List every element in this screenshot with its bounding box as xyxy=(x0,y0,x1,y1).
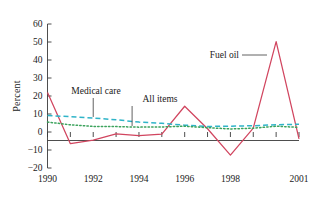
x-axis: 199019921994199619982001 xyxy=(38,132,309,184)
y-axis-tick-labels: 6050403020100−10−20 xyxy=(28,19,43,173)
x-axis-tick-label: 2001 xyxy=(290,174,309,184)
y-axis-tick-label: 40 xyxy=(33,55,43,65)
x-axis-tick-labels: 199019921994199619982001 xyxy=(38,174,309,184)
annotation-label-fuel-oil: Fuel oil xyxy=(210,50,240,60)
y-axis-tick-label: −10 xyxy=(28,145,43,155)
y-axis-tick-label: 30 xyxy=(33,73,43,83)
percent-change-line-chart: 6050403020100−10−20 Percent 199019921994… xyxy=(0,0,309,203)
x-axis-tick-label: 1990 xyxy=(38,174,57,184)
chart-container: 6050403020100−10−20 Percent 199019921994… xyxy=(0,0,309,203)
y-axis-tick-label: 50 xyxy=(33,37,43,47)
x-axis-tick-label: 1996 xyxy=(175,174,194,184)
annotations-group: Medical careAll itemsFuel oil xyxy=(71,50,267,126)
x-axis-tick-label: 1994 xyxy=(129,174,148,184)
x-axis-tick-label: 1992 xyxy=(84,174,103,184)
annotation-label-all-items: All items xyxy=(142,94,177,104)
y-axis-tick-label: 60 xyxy=(33,19,43,29)
y-axis-tick-label: 0 xyxy=(38,127,43,137)
y-axis-title: Percent xyxy=(11,80,22,111)
y-axis-tick-label: 10 xyxy=(33,109,43,119)
y-axis-tick-label: 20 xyxy=(33,91,43,101)
x-axis-ticks xyxy=(48,132,300,137)
annotation-label-medical-care: Medical care xyxy=(71,86,120,96)
x-axis-tick-label: 1998 xyxy=(221,174,240,184)
series-line-all-items xyxy=(48,122,300,129)
y-axis: 6050403020100−10−20 Percent xyxy=(11,19,52,173)
y-axis-tick-label: −20 xyxy=(28,163,43,173)
